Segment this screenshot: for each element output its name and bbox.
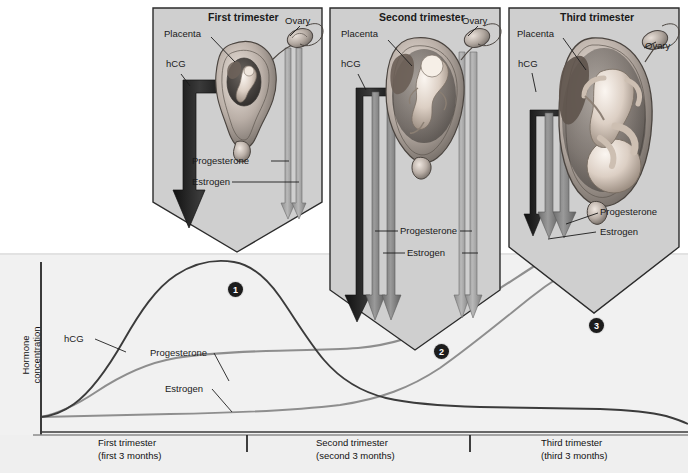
panel-second-hcg-label: hCG bbox=[341, 58, 361, 70]
panel-first-placenta-label: Placenta bbox=[164, 28, 201, 40]
panel-first-estrogen-label: Estrogen bbox=[192, 176, 230, 188]
x-tick-second-line2: (second 3 months) bbox=[316, 450, 395, 461]
panel-second-placenta-label: Placenta bbox=[341, 28, 378, 40]
x-tick-second-line1: Second trimester bbox=[316, 437, 388, 448]
y-axis-title-line2: concentration bbox=[31, 326, 42, 383]
panel-third-progesterone-label: Progesterone bbox=[600, 206, 657, 218]
pregnancy-hormone-figure: Hormone concentration hCG Progesterone E… bbox=[0, 0, 688, 473]
x-tick-first-line1: First trimester bbox=[98, 437, 156, 448]
panel-third-hcg-label: hCG bbox=[518, 58, 538, 70]
x-tick-label-third: Third trimester (third 3 months) bbox=[541, 437, 608, 463]
panel-first-hcg-label: hCG bbox=[166, 58, 186, 70]
panel-first-trimester bbox=[153, 8, 323, 252]
panel-second-ovary-label: Ovary bbox=[462, 15, 487, 27]
estrogen-curve-label: Estrogen bbox=[165, 383, 203, 395]
x-tick-first-line2: (first 3 months) bbox=[98, 450, 161, 461]
hcg-curve-label: hCG bbox=[64, 333, 84, 345]
panel-third-ovary-label: Ovary bbox=[645, 40, 670, 52]
y-axis-title-line1: Hormone bbox=[20, 335, 31, 374]
marker-2[interactable]: 2 bbox=[434, 344, 449, 359]
panel-third-estrogen-label: Estrogen bbox=[600, 226, 638, 238]
hormone-chart bbox=[0, 0, 688, 473]
progesterone-curve-label: Progesterone bbox=[150, 347, 207, 359]
marker-1[interactable]: 1 bbox=[228, 282, 243, 297]
panel-third-trimester bbox=[509, 8, 679, 313]
panel-third-placenta-label: Placenta bbox=[517, 28, 554, 40]
panel-second-title: Second trimester bbox=[379, 11, 465, 24]
panel-third-title: Third trimester bbox=[560, 11, 634, 24]
panel-first-progesterone-label: Progesterone bbox=[192, 155, 249, 167]
y-axis-title: Hormone concentration bbox=[20, 300, 42, 410]
x-tick-third-line1: Third trimester bbox=[541, 437, 602, 448]
panel-second-estrogen-label: Estrogen bbox=[407, 247, 445, 259]
x-tick-label-first: First trimester (first 3 months) bbox=[98, 437, 161, 463]
marker-3[interactable]: 3 bbox=[589, 318, 604, 333]
panel-second-progesterone-label: Progesterone bbox=[400, 225, 457, 237]
panel-first-title: First trimester bbox=[208, 11, 279, 24]
x-tick-third-line2: (third 3 months) bbox=[541, 450, 608, 461]
panel-first-ovary-label: Ovary bbox=[285, 15, 310, 27]
x-tick-label-second: Second trimester (second 3 months) bbox=[316, 437, 395, 463]
